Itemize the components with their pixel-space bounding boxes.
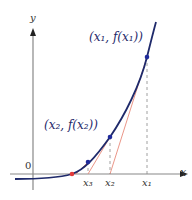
y-axis-label: y — [30, 12, 36, 23]
point-x2 — [108, 135, 113, 140]
function-curve — [15, 22, 156, 179]
tick-label-x2: x₂ — [105, 177, 115, 188]
y-axis-arrow-icon — [30, 28, 36, 36]
point-x3 — [86, 160, 91, 165]
tick-label-x1: x₁ — [142, 177, 152, 188]
root-point — [70, 172, 75, 177]
point-x1 — [145, 55, 150, 60]
origin-label: 0 — [25, 160, 31, 171]
point-label-x1: (x₁, f(x₁)) — [89, 30, 143, 44]
x-axis-label: x — [180, 166, 186, 179]
point-label-x2: (x₂, f(x₂)) — [44, 118, 98, 132]
tick-label-x3: x₃ — [83, 177, 93, 188]
